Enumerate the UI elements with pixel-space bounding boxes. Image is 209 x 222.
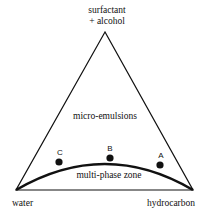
region-label-multi-phase-zone: multi-phase zone <box>76 170 141 181</box>
point-label-c: C <box>57 147 63 158</box>
vertex-label-water: water <box>12 198 33 209</box>
point-b <box>106 154 113 161</box>
vertex-label-top-line1: surfactant <box>88 5 125 16</box>
point-label-a: A <box>158 150 163 161</box>
point-c <box>55 158 62 165</box>
point-a <box>156 161 163 168</box>
region-label-micro-emulsions: micro-emulsions <box>73 111 137 122</box>
vertex-label-top-line2: + alcohol <box>89 16 125 27</box>
point-label-b: B <box>107 143 112 154</box>
vertex-label-hydrocarbon: hydrocarbon <box>147 198 195 209</box>
